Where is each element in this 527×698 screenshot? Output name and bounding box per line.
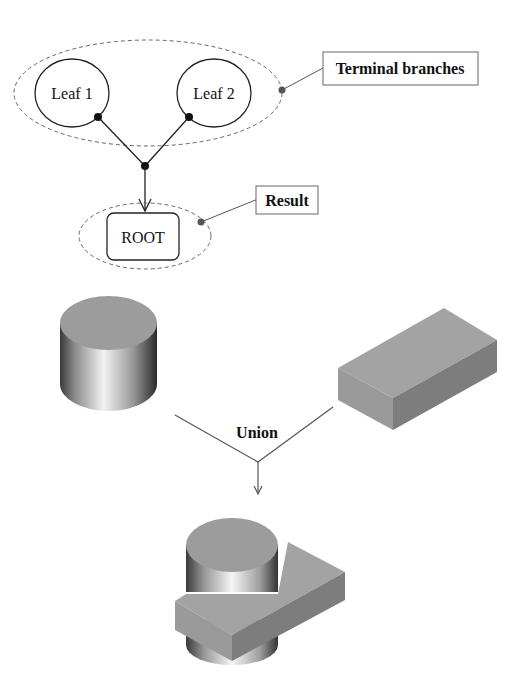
union-result-shape — [175, 518, 345, 665]
box-shape — [338, 308, 497, 430]
tree-diagram: Leaf 1 Leaf 2 ROOT Terminal branches Res… — [14, 40, 478, 269]
result-callout-leader — [201, 199, 258, 222]
edge-leaf1-junction — [98, 117, 145, 166]
result-callout-label: Result — [265, 192, 309, 209]
cylinder-shape — [60, 296, 157, 411]
edge-leaf2-junction — [145, 117, 189, 166]
leaf-2-port-dot — [185, 113, 193, 121]
root-label: ROOT — [121, 229, 165, 246]
leaf-1-label: Leaf 1 — [51, 85, 92, 102]
union-operator: Union — [175, 407, 333, 494]
union-label: Union — [236, 424, 278, 441]
terminal-callout-label: Terminal branches — [336, 60, 465, 77]
result-callout-dot — [198, 219, 205, 226]
terminal-callout-leader — [282, 68, 323, 90]
terminal-callout-dot — [279, 87, 286, 94]
leaf-1-port-dot — [94, 113, 102, 121]
leaf-2-label: Leaf 2 — [193, 85, 234, 102]
